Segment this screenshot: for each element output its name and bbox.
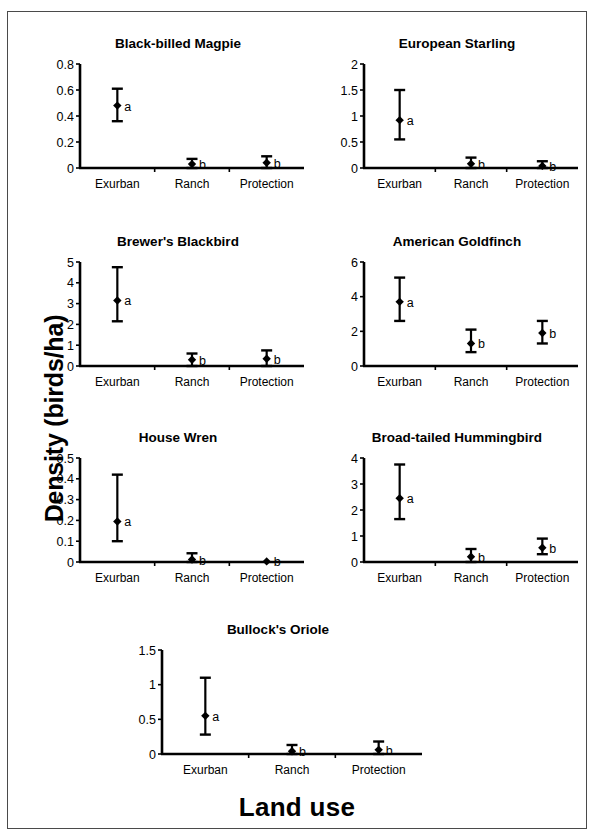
significance-group-letter: b bbox=[549, 160, 556, 174]
y-tick-label: 2 bbox=[351, 325, 358, 339]
x-category-label: Protection bbox=[240, 375, 294, 389]
plot-area: 00.511.52ExurbanaRanchbProtectionb bbox=[330, 52, 584, 200]
data-point-marker bbox=[395, 494, 403, 502]
data-point-marker bbox=[467, 339, 475, 347]
plot-area: 01234ExurbanaRanchbProtectionb bbox=[330, 446, 584, 594]
y-tick-label: 0 bbox=[67, 556, 74, 570]
significance-group-letter: b bbox=[386, 744, 393, 758]
data-point-marker bbox=[538, 544, 546, 552]
x-category-label: Ranch bbox=[175, 177, 210, 191]
y-tick-label: 4 bbox=[351, 290, 358, 304]
y-tick-label: 0.2 bbox=[57, 136, 74, 150]
y-tick-label: 1 bbox=[149, 678, 156, 692]
y-tick-label: 0.2 bbox=[57, 514, 74, 528]
y-tick-label: 4 bbox=[67, 276, 74, 290]
y-tick-label: 0.6 bbox=[57, 84, 74, 98]
data-point-marker bbox=[201, 712, 209, 720]
y-tick-label: 0 bbox=[67, 162, 74, 176]
error-bar bbox=[394, 465, 405, 520]
x-category-label: Ranch bbox=[175, 571, 210, 585]
plot-area: 0246ExurbanaRanchbProtectionb bbox=[330, 250, 584, 398]
x-category-label: Ranch bbox=[454, 177, 489, 191]
x-category-label: Protection bbox=[240, 177, 294, 191]
y-tick-label: 0.5 bbox=[57, 452, 74, 466]
panel-title: House Wren bbox=[46, 430, 310, 446]
y-tick-label: 0.5 bbox=[139, 713, 156, 727]
plot-area: 012345ExurbanaRanchbProtectionb bbox=[46, 250, 310, 398]
significance-group-letter: a bbox=[407, 114, 414, 128]
data-point-marker bbox=[188, 356, 196, 364]
panel-title: European Starling bbox=[330, 36, 584, 52]
significance-group-letter: a bbox=[407, 492, 414, 506]
y-tick-label: 1 bbox=[67, 339, 74, 353]
panel-american-goldfinch: American Goldfinch0246ExurbanaRanchbProt… bbox=[330, 234, 584, 404]
x-category-label: Protection bbox=[240, 571, 294, 585]
panel-black-billed-magpie: Black-billed Magpie00.20.40.60.8Exurbana… bbox=[46, 36, 310, 206]
x-category-label: Protection bbox=[352, 763, 406, 777]
significance-group-letter: a bbox=[212, 710, 219, 724]
y-tick-label: 1.5 bbox=[341, 84, 358, 98]
significance-group-letter: a bbox=[124, 515, 131, 529]
plot-area: 00.10.20.30.40.5ExurbanaRanchbProtection… bbox=[46, 446, 310, 594]
y-tick-label: 0 bbox=[351, 360, 358, 374]
y-tick-label: 0 bbox=[351, 556, 358, 570]
significance-group-letter: a bbox=[124, 100, 131, 114]
panel-title: American Goldfinch bbox=[330, 234, 584, 250]
x-category-label: Protection bbox=[515, 375, 569, 389]
significance-group-letter: b bbox=[199, 354, 206, 368]
y-tick-label: 0.1 bbox=[57, 535, 74, 549]
plot-area: 00.511.5ExurbanaRanchbProtectionb bbox=[128, 638, 428, 786]
data-point-marker bbox=[262, 557, 270, 565]
x-category-label: Exurban bbox=[377, 571, 422, 585]
significance-group-letter: b bbox=[199, 554, 206, 568]
plot-area: 00.20.40.60.8ExurbanaRanchbProtectionb bbox=[46, 52, 310, 200]
significance-group-letter: b bbox=[274, 555, 281, 569]
significance-group-letter: b bbox=[478, 551, 485, 565]
x-category-label: Ranch bbox=[454, 375, 489, 389]
x-category-label: Exurban bbox=[95, 375, 140, 389]
panel-european-starling: European Starling00.511.52ExurbanaRanchb… bbox=[330, 36, 584, 206]
x-category-label: Exurban bbox=[95, 177, 140, 191]
data-point-marker bbox=[113, 101, 121, 109]
y-tick-label: 5 bbox=[67, 256, 74, 270]
data-point-marker bbox=[395, 116, 403, 124]
y-tick-label: 6 bbox=[351, 256, 358, 270]
error-bar bbox=[394, 90, 405, 139]
x-category-label: Ranch bbox=[175, 375, 210, 389]
data-point-marker bbox=[467, 553, 475, 561]
significance-group-letter: b bbox=[478, 337, 485, 351]
panel-title: Brewer's Blackbird bbox=[46, 234, 310, 250]
significance-group-letter: b bbox=[549, 542, 556, 556]
significance-group-letter: b bbox=[549, 327, 556, 341]
error-bar bbox=[112, 475, 123, 542]
y-tick-label: 0.4 bbox=[57, 110, 74, 124]
panel-bullocks-oriole: Bullock's Oriole00.511.5ExurbanaRanchbPr… bbox=[128, 622, 428, 792]
x-category-label: Ranch bbox=[454, 571, 489, 585]
data-point-marker bbox=[113, 517, 121, 525]
panel-title: Black-billed Magpie bbox=[46, 36, 310, 52]
x-category-label: Exurban bbox=[377, 177, 422, 191]
y-tick-label: 1 bbox=[351, 110, 358, 124]
x-axis-title: Land use bbox=[0, 792, 594, 823]
data-point-marker bbox=[262, 159, 270, 167]
panel-brewers-blackbird: Brewer's Blackbird012345ExurbanaRanchbPr… bbox=[46, 234, 310, 404]
y-tick-label: 1 bbox=[351, 530, 358, 544]
y-tick-label: 2 bbox=[351, 504, 358, 518]
panel-house-wren: House Wren00.10.20.30.40.5ExurbanaRanchb… bbox=[46, 430, 310, 600]
significance-group-letter: b bbox=[299, 745, 306, 759]
significance-group-letter: b bbox=[274, 353, 281, 367]
y-tick-label: 0.3 bbox=[57, 493, 74, 507]
y-tick-label: 0 bbox=[149, 748, 156, 762]
x-category-label: Ranch bbox=[275, 763, 310, 777]
x-category-label: Exurban bbox=[95, 571, 140, 585]
y-tick-label: 0 bbox=[351, 162, 358, 176]
y-tick-label: 2 bbox=[67, 318, 74, 332]
x-category-label: Exurban bbox=[183, 763, 228, 777]
data-point-marker bbox=[113, 296, 121, 304]
panel-title: Bullock's Oriole bbox=[128, 622, 428, 638]
y-tick-label: 0 bbox=[67, 360, 74, 374]
significance-group-letter: b bbox=[274, 157, 281, 171]
panel-title: Broad-tailed Hummingbird bbox=[330, 430, 584, 446]
figure-panel-grid: Density (birds/ha) Land use Black-billed… bbox=[0, 0, 594, 835]
y-tick-label: 0.5 bbox=[341, 136, 358, 150]
